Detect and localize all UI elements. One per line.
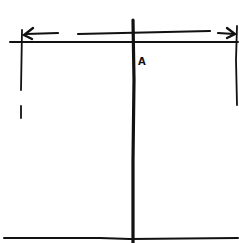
diagram-canvas: [0, 0, 239, 243]
left-boundary-line: [21, 30, 22, 90]
dimension-arrow-right-segment: [218, 33, 234, 34]
bottom-baseline: [4, 238, 238, 239]
right-boundary-line: [236, 26, 237, 105]
dimension-arrow-middle-segment: [78, 31, 210, 34]
dimension-arrow-left-segment: [26, 33, 58, 34]
point-a-label: A: [138, 56, 146, 67]
central-vertical-line: [133, 20, 134, 243]
